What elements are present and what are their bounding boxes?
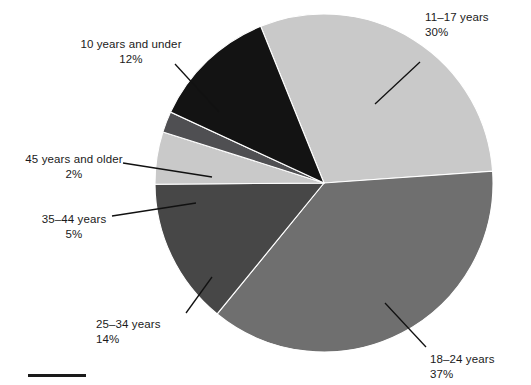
- pie-chart-figure: 11–17 years 30% 18–24 years 37% 25–34 ye…: [0, 0, 531, 385]
- pie-label-25-34-years: 25–34 years 14%: [96, 317, 204, 346]
- pie-label-25-34-name: 25–34 years: [96, 317, 204, 332]
- pie-label-45-plus-name: 45 years and older: [8, 152, 140, 167]
- pie-label-45-plus-percent: 2%: [8, 167, 140, 182]
- pie-label-10-years-and-under: 10 years and under 12%: [56, 37, 206, 66]
- pie-label-18-24-name: 18–24 years: [430, 352, 530, 367]
- caption-rule: [28, 374, 86, 377]
- pie-label-11-17-name: 11–17 years: [425, 10, 525, 25]
- pie-label-35-44-years: 35–44 years 5%: [22, 212, 126, 241]
- pie-label-10-under-name: 10 years and under: [56, 37, 206, 52]
- pie-label-35-44-percent: 5%: [22, 227, 126, 242]
- pie-label-11-17-years: 11–17 years 30%: [425, 10, 525, 39]
- figure-caption-row: [0, 371, 531, 385]
- pie-label-11-17-percent: 30%: [425, 25, 525, 40]
- pie-label-35-44-name: 35–44 years: [22, 212, 126, 227]
- pie-label-45-years-and-older: 45 years and older 2%: [8, 152, 140, 181]
- pie-label-10-under-percent: 12%: [56, 52, 206, 67]
- pie-label-25-34-percent: 14%: [96, 332, 204, 347]
